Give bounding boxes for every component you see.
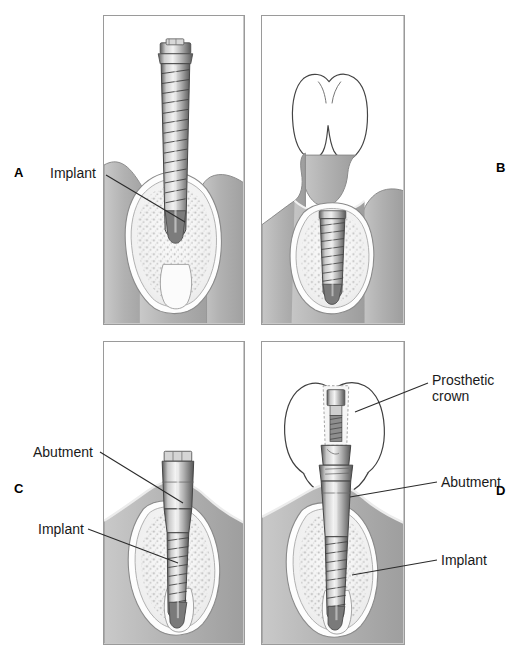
panel-letter-b: B: [496, 160, 506, 175]
panel-letter-a: A: [14, 165, 24, 180]
implant-cover-screw: [160, 39, 191, 54]
annotation-prosthetic-crown-d: Prostheticcrown: [432, 372, 494, 404]
abutment-collar-upper: [321, 445, 351, 465]
screw-head: [327, 390, 345, 406]
annotation-abutment-c: Abutment: [33, 444, 93, 460]
annotation-prosthetic-crown-line2: crown: [432, 388, 469, 404]
implant-submerged: [319, 211, 346, 305]
annotation-prosthetic-crown-line1: Prosthetic: [432, 372, 494, 388]
implant-collar: [158, 54, 193, 64]
implant-cover-screw: [319, 211, 346, 219]
implant-fixture: [167, 533, 189, 628]
dental-implant-figure: A B C D Implant Abutment Implant Prosthe…: [0, 0, 524, 661]
panel-b-illustration: [262, 16, 404, 324]
abutment-upper: [319, 445, 353, 481]
panel-a-illustration: [104, 16, 244, 324]
annotation-implant-a: Implant: [50, 165, 96, 181]
annotation-implant-d: Implant: [441, 552, 487, 568]
prosthetic-screw: [327, 390, 345, 442]
abutment: [321, 481, 351, 537]
panel-a: [103, 15, 245, 325]
annotation-abutment-d: Abutment: [441, 474, 501, 490]
panel-d: [261, 341, 405, 645]
screw-neck: [330, 406, 342, 416]
natural-tooth-crown: [292, 74, 367, 159]
panel-letter-c: C: [14, 481, 24, 496]
panel-c-illustration: [104, 342, 244, 644]
tooth-root-region: [302, 155, 355, 206]
annotation-implant-c: Implant: [38, 521, 84, 537]
panel-b: [261, 15, 405, 325]
socket-void: [160, 264, 191, 308]
abutment-screw-head: [164, 451, 192, 461]
abutment: [162, 451, 194, 532]
panel-c: [103, 341, 245, 645]
panel-d-illustration: [262, 342, 404, 644]
